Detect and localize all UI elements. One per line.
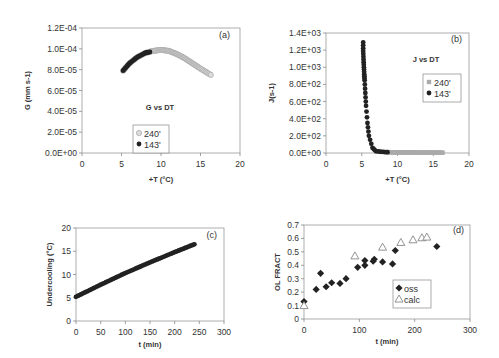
legend: 240'143' [423, 74, 461, 102]
x-tick-label: 300 [217, 327, 231, 337]
x-axis-label: t (min) [139, 340, 162, 349]
x-tick-label: 0 [74, 327, 79, 337]
x-tick-label: 5 [359, 159, 364, 169]
marker-filled-circle [385, 150, 390, 155]
marker-filled-circle [137, 142, 142, 147]
marker-filled-circle [366, 129, 371, 134]
y-tick-label: 0.1 [287, 301, 299, 311]
plot-area [76, 228, 224, 321]
y-axis-label: J(s-1) [267, 82, 276, 103]
y-tick-label: 1.4E+03 [289, 28, 321, 38]
panel-label: (c) [207, 230, 218, 240]
x-tick-label: 0 [80, 159, 85, 169]
y-tick-label: 8.0E+02 [289, 79, 321, 89]
marker-filled-circle [365, 115, 370, 120]
x-tick-label: 15 [196, 159, 206, 169]
x-tick-label: 0 [302, 325, 307, 335]
marker-filled-circle [364, 103, 369, 108]
marker-filled-circle [363, 91, 368, 96]
marker-filled-circle [362, 82, 367, 87]
legend: 240'143' [133, 125, 169, 153]
legend-entry: oss [404, 284, 419, 294]
y-tick-label: 6.0E+02 [289, 97, 321, 107]
x-axis-label: t (min) [376, 337, 399, 346]
x-tick-label: 15 [429, 159, 439, 169]
y-tick-label: 1.0E+03 [289, 62, 321, 72]
y-tick-label: 0.3 [287, 274, 299, 284]
x-tick-label: 250 [192, 327, 206, 337]
marker-filled-circle [366, 125, 371, 130]
series-240 [385, 150, 444, 155]
y-tick-label: 1.2E+03 [289, 45, 321, 55]
x-tick-label: 100 [118, 327, 132, 337]
y-tick-label: 0.0E+00 [289, 148, 321, 158]
panel-label: (b) [451, 34, 462, 44]
y-tick-label: 2.0E-05 [47, 127, 77, 137]
y-tick-label: 8.0E-05 [47, 65, 77, 75]
legend-entry: calc [404, 295, 421, 305]
y-tick-label: 1.0E-04 [47, 44, 77, 54]
marker-filled-circle [192, 242, 197, 247]
chart-panel-c: 05101520050100150200250300t (min)Underco… [45, 223, 231, 349]
legend-entry: 143' [434, 89, 451, 99]
y-axis-label: OL FRACT [273, 253, 282, 291]
y-tick-label: 0 [294, 314, 299, 324]
figure-canvas: 0.0E+002.0E-054.0E-056.0E-058.0E-051.0E-… [0, 0, 499, 358]
marker-filled-circle [364, 109, 369, 114]
y-tick-label: 4.0E+02 [289, 114, 321, 124]
y-tick-label: 0.7 [287, 220, 299, 230]
x-tick-label: 20 [464, 159, 474, 169]
y-tick-label: 0 [66, 316, 71, 326]
marker-filled-circle [148, 50, 153, 55]
x-tick-label: 5 [119, 159, 124, 169]
y-tick-label: 10 [62, 270, 72, 280]
panel-label: (d) [453, 225, 464, 235]
x-tick-label: 200 [408, 325, 422, 335]
marker-square [427, 80, 431, 84]
y-axis-label: G (mm s-1) [23, 70, 32, 110]
marker-filled-circle [362, 78, 367, 83]
marker-filled-circle [363, 86, 368, 91]
legend-entry: 143' [144, 140, 161, 150]
x-tick-label: 50 [96, 327, 106, 337]
x-tick-label: 10 [156, 159, 166, 169]
marker-open-circle [208, 72, 213, 77]
x-tick-label: 200 [168, 327, 182, 337]
y-tick-label: 5 [66, 293, 71, 303]
marker-square [440, 150, 444, 154]
chart-title: G vs DT [146, 103, 175, 112]
marker-filled-circle [363, 95, 368, 100]
marker-filled-circle [365, 121, 370, 126]
legend-entry: 240' [434, 78, 451, 88]
y-tick-label: 15 [62, 246, 72, 256]
chart-panel-a: 0.0E+002.0E-054.0E-056.0E-058.0E-051.0E-… [23, 23, 245, 184]
x-tick-label: 100 [352, 325, 366, 335]
y-tick-label: 20 [62, 223, 72, 233]
chart-title: J vs DT [413, 55, 440, 64]
legend: osscalc [393, 280, 431, 308]
y-tick-label: 0.4 [287, 260, 299, 270]
y-tick-label: 0.5 [287, 247, 299, 257]
x-tick-label: 300 [463, 325, 477, 335]
y-tick-label: 6.0E-05 [47, 86, 77, 96]
x-tick-label: 150 [143, 327, 157, 337]
plot-area [304, 225, 470, 319]
x-axis-label: +T (°C) [385, 175, 410, 184]
y-tick-label: 1.2E-04 [47, 23, 77, 33]
x-axis-label: +T (°C) [149, 175, 174, 184]
chart-panel-d: 00.10.20.30.40.50.60.70100200300t (min)O… [273, 220, 477, 346]
y-tick-label: 4.0E-05 [47, 106, 77, 116]
marker-filled-circle [363, 99, 368, 104]
chart-panel-b: 0.0E+002.0E+024.0E+026.0E+028.0E+021.0E+… [267, 28, 474, 184]
y-tick-label: 2.0E+02 [289, 131, 321, 141]
y-tick-label: 0.0E+00 [45, 148, 77, 158]
marker-open-circle [136, 130, 141, 135]
panel-label: (a) [219, 30, 230, 40]
y-tick-label: 0.2 [287, 287, 299, 297]
marker-filled-circle [427, 91, 432, 96]
x-tick-label: 10 [393, 159, 403, 169]
x-tick-label: 0 [324, 159, 329, 169]
y-tick-label: 0.6 [287, 233, 299, 243]
legend-entry: 240' [144, 129, 161, 139]
x-tick-label: 20 [235, 159, 245, 169]
